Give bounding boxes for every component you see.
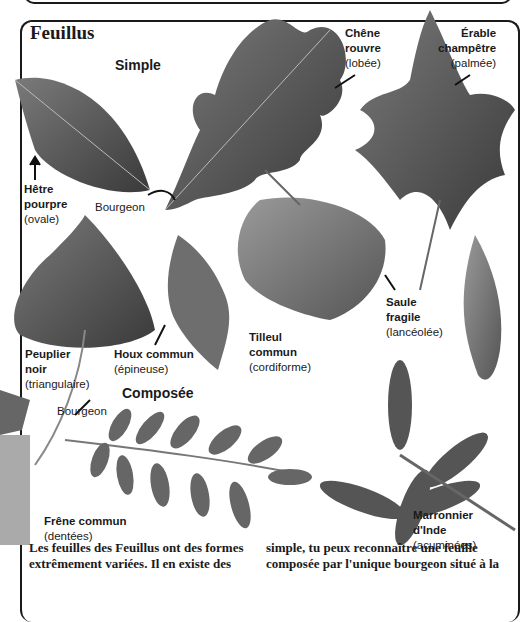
label-houx-commun: Houx commun (épineuse) (114, 347, 194, 377)
explorer-character-icon (0, 390, 30, 545)
label-tilleul-commun: Tilleul commun (cordiforme) (249, 330, 311, 375)
ash-compound-leaf-icon (65, 405, 312, 530)
label-hetre-pourpre: Hêtre pourpre (ovale) (24, 182, 67, 227)
label-peuplier-noir: Peuplier noir (triangulaire) (25, 347, 90, 392)
label-bourgeon-composee: Bourgeon (57, 404, 107, 419)
body-text-right: simple, tu peux reconnaître une feuille … (266, 540, 499, 572)
label-erable-champetre: Érable champêtre (palmée) (438, 26, 496, 71)
willow-leaf-icon (464, 235, 502, 380)
label-chene-rouvre: Chêne rouvre (lobée) (345, 26, 381, 71)
label-saule-fragile: Saule fragile (lancéolée) (386, 295, 443, 340)
label-bourgeon-simple: Bourgeon (95, 200, 145, 215)
poplar-leaf-icon (14, 215, 155, 465)
body-text-left: Les feuilles des Feuillus ont des formes… (29, 540, 244, 572)
page-title: Feuillus (30, 22, 98, 44)
section-simple-heading: Simple (115, 57, 161, 73)
section-composee-heading: Composée (122, 385, 194, 401)
linden-leaf-icon (238, 170, 386, 320)
oak-leaf-icon (165, 19, 346, 210)
